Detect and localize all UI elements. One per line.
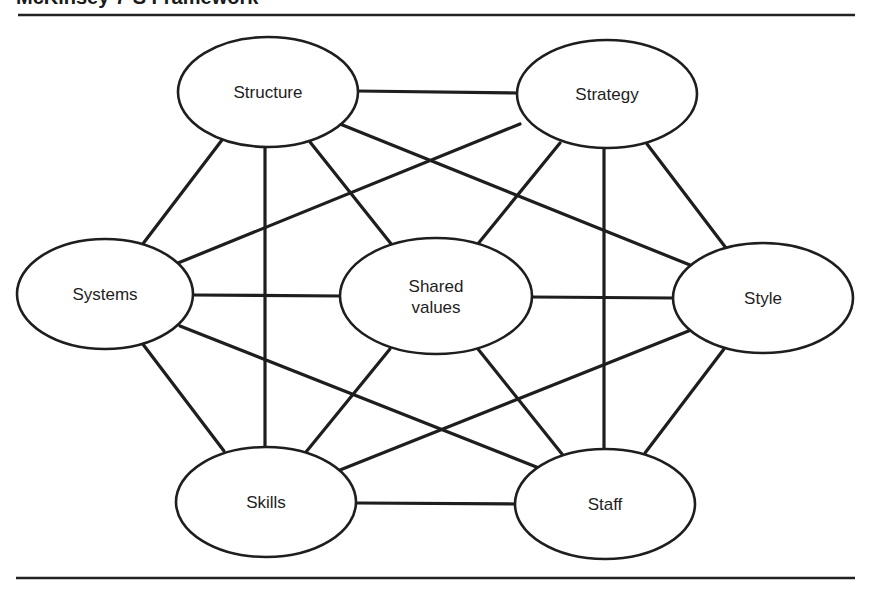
node-label: Systems xyxy=(72,285,137,304)
node-shared-values: Sharedvalues xyxy=(340,238,532,354)
edge-structure-strategy xyxy=(357,91,518,93)
node-structure: Structure xyxy=(178,37,358,147)
node-ellipse xyxy=(340,238,532,354)
edge-systems-skills xyxy=(142,343,224,451)
edge-strategy-style xyxy=(647,144,726,248)
node-systems: Systems xyxy=(17,239,193,349)
node-label: Shared xyxy=(409,277,464,296)
node-label: values xyxy=(411,298,460,317)
edge-systems-staff xyxy=(180,326,544,470)
edge-skills-staff xyxy=(356,503,516,504)
edge-shared-values-style xyxy=(531,297,674,298)
edge-structure-systems xyxy=(142,140,222,245)
node-label: Strategy xyxy=(575,85,639,104)
node-label: Skills xyxy=(246,493,286,512)
node-label: Staff xyxy=(588,495,623,514)
node-skills: Skills xyxy=(176,447,356,557)
edge-strategy-shared-values xyxy=(477,143,560,245)
seven-s-diagram: StructureStrategySystemsSharedvaluesStyl… xyxy=(0,0,882,593)
edge-shared-values-staff xyxy=(478,349,562,454)
edge-shared-values-skills xyxy=(306,349,390,452)
edge-style-skills xyxy=(340,330,691,470)
framework-nodes: StructureStrategySystemsSharedvaluesStyl… xyxy=(17,37,853,559)
node-label: Structure xyxy=(234,83,303,102)
node-style: Style xyxy=(673,243,853,353)
node-label: Style xyxy=(744,289,782,308)
edge-style-staff xyxy=(645,349,724,453)
node-strategy: Strategy xyxy=(517,40,697,148)
edge-systems-shared-values xyxy=(193,295,341,296)
node-staff: Staff xyxy=(515,449,695,559)
